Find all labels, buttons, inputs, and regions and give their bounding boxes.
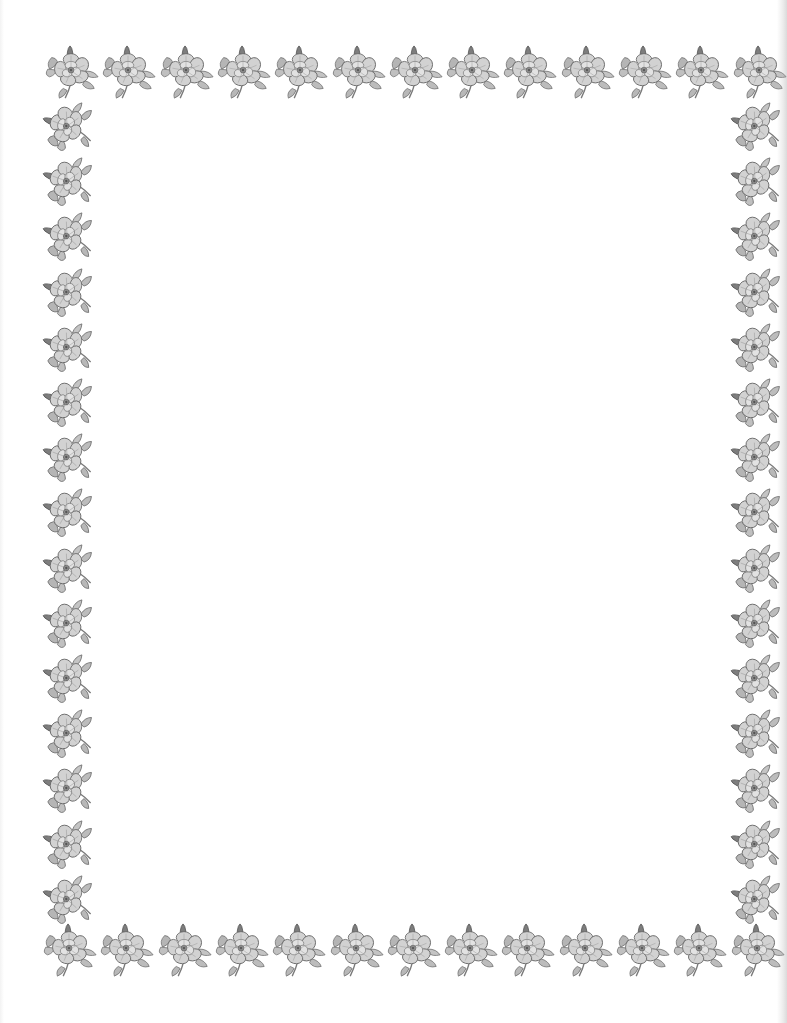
- wild-rose-flower-icon: [613, 922, 671, 980]
- scan-edge-shadow-right: [777, 0, 787, 1023]
- wild-rose-flower-icon: [670, 922, 728, 980]
- wild-rose-flower-icon: [214, 44, 272, 102]
- page: [0, 0, 787, 1023]
- wild-rose-flower-icon: [269, 922, 327, 980]
- wild-rose-flower-icon: [212, 922, 270, 980]
- wild-rose-flower-icon: [672, 44, 730, 102]
- blank-content-area: [100, 106, 722, 916]
- wild-rose-flower-icon: [155, 922, 213, 980]
- wild-rose-flower-icon: [441, 922, 499, 980]
- wild-rose-flower-icon: [386, 44, 444, 102]
- wild-rose-flower-icon: [500, 44, 558, 102]
- wild-rose-flower-icon: [97, 922, 155, 980]
- wild-rose-flower-icon: [99, 44, 157, 102]
- wild-rose-flower-icon: [271, 44, 329, 102]
- wild-rose-flower-icon: [384, 922, 442, 980]
- wild-rose-flower-icon: [556, 922, 614, 980]
- wild-rose-flower-icon: [157, 44, 215, 102]
- wild-rose-flower-icon: [327, 922, 385, 980]
- wild-rose-flower-icon: [558, 44, 616, 102]
- wild-rose-flower-icon: [443, 44, 501, 102]
- wild-rose-flower-icon: [498, 922, 556, 980]
- wild-rose-flower-icon: [329, 44, 387, 102]
- wild-rose-flower-icon: [615, 44, 673, 102]
